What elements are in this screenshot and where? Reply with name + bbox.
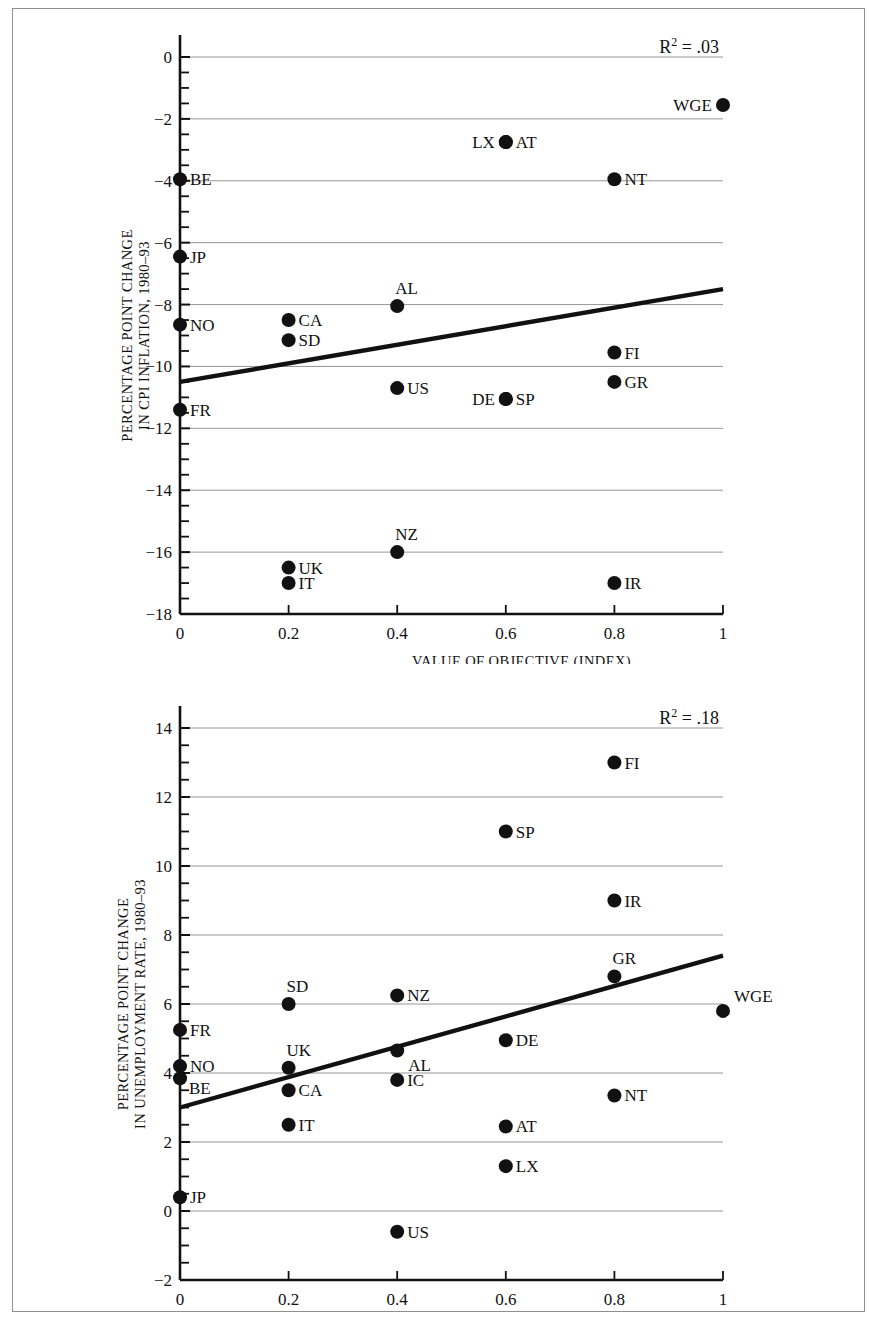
y-tick-label: 8 <box>164 926 173 945</box>
chart-unemployment-rate: 14121086420−200.20.40.60.81FRNOBEJPSDUKC… <box>20 668 860 1308</box>
x-tick-label: 0.8 <box>604 624 625 643</box>
point-label-IR: IR <box>624 892 642 911</box>
y-axis-title: PERCENTAGE POINT CHANGEIN CPI INFLATION,… <box>119 229 152 441</box>
marker-dot <box>173 250 187 264</box>
data-point-LX[interactable]: LX <box>499 1157 539 1176</box>
data-point-NZ[interactable]: NZ <box>390 986 430 1005</box>
point-label-NZ: NZ <box>395 525 418 544</box>
data-point-DE[interactable]: DE <box>499 1031 539 1050</box>
marker-dot <box>716 1004 730 1018</box>
point-label-GR: GR <box>612 949 636 968</box>
data-point-FI[interactable]: FI <box>607 754 639 773</box>
marker-dot <box>390 1225 404 1239</box>
marker-dot <box>282 561 296 575</box>
point-label-CA: CA <box>299 311 323 330</box>
cpi-inflation-svg: 0−2−4−6−8−10−12−14−16−1800.20.40.60.81BE… <box>20 14 860 664</box>
point-label-JP: JP <box>190 1188 206 1207</box>
data-point-IC[interactable]: IC <box>390 1071 424 1090</box>
y-tick-label: 2 <box>164 1133 173 1152</box>
y-tick-labels: 14121086420−2 <box>154 719 173 1290</box>
data-point-AT[interactable]: AT <box>499 1117 537 1136</box>
r-squared-annotation: R2 = .18 <box>659 706 719 728</box>
y-tick-label: 0 <box>164 1202 173 1221</box>
marker-dot <box>390 1044 404 1058</box>
r-squared-annotation: R2 = .03 <box>659 35 719 57</box>
data-point-CA[interactable]: CA <box>282 311 323 330</box>
gridlines <box>180 728 723 1211</box>
data-point-NT[interactable]: NT <box>607 170 647 189</box>
data-point-US[interactable]: US <box>390 379 429 398</box>
point-label-LX: LX <box>472 133 495 152</box>
data-point-SD[interactable]: SD <box>282 977 309 1011</box>
marker-dot <box>173 1190 187 1204</box>
data-point-CA[interactable]: CA <box>282 1081 323 1100</box>
point-label-FI: FI <box>624 754 639 773</box>
x-tick-label: 1 <box>719 1290 728 1308</box>
data-point-LX[interactable]: LX <box>472 133 513 152</box>
data-point-GR[interactable]: GR <box>607 373 648 392</box>
point-label-UK: UK <box>287 1041 312 1060</box>
data-point-IT[interactable]: IT <box>282 574 316 593</box>
y-axis-title: PERCENTAGE POINT CHANGEIN UNEMPLOYMENT R… <box>115 879 148 1129</box>
data-point-IR[interactable]: IR <box>607 574 642 593</box>
marker-dot <box>173 1059 187 1073</box>
x-tick-label: 1 <box>719 624 728 643</box>
point-label-NO: NO <box>190 316 215 335</box>
point-label-GR: GR <box>624 373 648 392</box>
marker-dot <box>173 1071 187 1085</box>
point-label-LX: LX <box>516 1157 539 1176</box>
y-tick-label: −2 <box>154 1271 172 1290</box>
data-point-GR[interactable]: GR <box>607 949 636 983</box>
y-tick-label: 10 <box>155 857 172 876</box>
point-label-CA: CA <box>299 1081 323 1100</box>
point-label-SD: SD <box>287 977 309 996</box>
data-point-SP[interactable]: SP <box>499 823 535 842</box>
point-label-AL: AL <box>395 279 418 298</box>
x-tick-label: 0.2 <box>278 1290 299 1308</box>
point-label-WGE: WGE <box>734 987 773 1006</box>
x-ticks: 00.20.40.60.81 <box>176 605 728 643</box>
marker-dot <box>390 545 404 559</box>
point-label-SD: SD <box>299 331 321 350</box>
marker-dot <box>390 1073 404 1087</box>
data-point-NT[interactable]: NT <box>607 1086 647 1105</box>
y-tick-label: 0 <box>164 48 173 67</box>
marker-dot <box>607 172 621 186</box>
data-point-NZ[interactable]: NZ <box>390 525 418 559</box>
data-point-IT[interactable]: IT <box>282 1116 316 1135</box>
data-point-JP[interactable]: JP <box>173 1188 206 1207</box>
figure-page: 0−2−4−6−8−10−12−14−16−1800.20.40.60.81BE… <box>0 0 877 1330</box>
x-tick-label: 0.8 <box>604 1290 625 1308</box>
data-point-IR[interactable]: IR <box>607 892 642 911</box>
data-point-AL[interactable]: AL <box>390 279 418 313</box>
y-tick-label: −16 <box>145 543 172 562</box>
x-tick-label: 0.2 <box>278 624 299 643</box>
data-point-JP[interactable]: JP <box>173 248 206 267</box>
marker-dot <box>499 1119 513 1133</box>
marker-dot <box>607 375 621 389</box>
y-tick-label: −14 <box>145 481 172 500</box>
point-label-IT: IT <box>299 574 316 593</box>
marker-dot <box>173 318 187 332</box>
y-tick-label: −4 <box>154 172 173 191</box>
data-point-US[interactable]: US <box>390 1223 429 1242</box>
data-points: BEJPNOFRCASDUKITALUSNZATLXSPDENTFIGRIRWG… <box>173 96 730 593</box>
marker-dot <box>607 969 621 983</box>
r-squared-text: R2 = .18 <box>659 706 719 728</box>
y-axis-title-line2: IN UNEMPLOYMENT RATE, 1980–93 <box>132 879 148 1129</box>
point-label-IR: IR <box>624 574 642 593</box>
point-label-BE: BE <box>190 170 212 189</box>
data-point-SD[interactable]: SD <box>282 331 321 350</box>
data-point-DE[interactable]: DE <box>472 390 513 409</box>
data-point-WGE[interactable]: WGE <box>716 987 773 1018</box>
trendline <box>180 289 723 382</box>
data-point-FI[interactable]: FI <box>607 344 639 363</box>
y-tick-label: −2 <box>154 110 172 129</box>
data-point-WGE[interactable]: WGE <box>673 96 730 115</box>
y-axis-title-line2: IN CPI INFLATION, 1980–93 <box>136 241 152 430</box>
x-tick-label: 0.6 <box>495 1290 516 1308</box>
y-tick-label: −18 <box>145 605 172 624</box>
axes <box>180 706 723 1280</box>
point-label-US: US <box>407 1223 429 1242</box>
marker-dot <box>499 1159 513 1173</box>
